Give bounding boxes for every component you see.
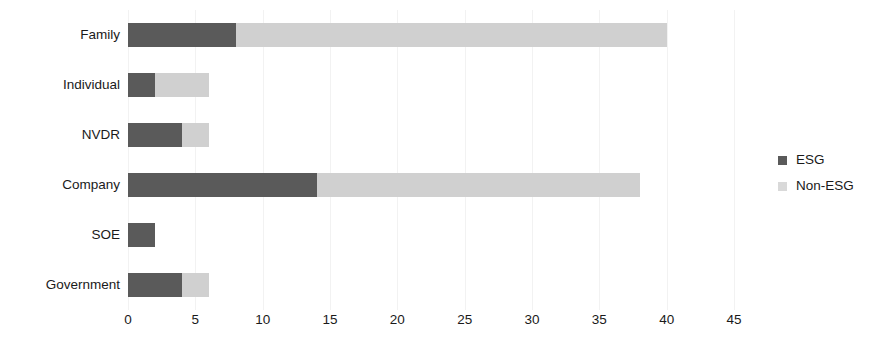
bar-row-individual [128, 60, 734, 110]
bar-segment-non-esg-family [236, 23, 667, 47]
x-tick-15: 15 [322, 312, 337, 328]
gridline-45 [734, 10, 735, 310]
bar-segment-esg-family [128, 23, 236, 47]
x-tick-25: 25 [457, 312, 472, 328]
y-axis-label-family: Family [0, 27, 120, 43]
bar-chart: FamilyIndividualNVDRCompanySOEGovernment… [0, 0, 894, 357]
y-axis-label-government: Government [0, 277, 120, 293]
y-axis-label-company: Company [0, 177, 120, 193]
legend-swatch-icon [778, 156, 787, 165]
bar-segment-non-esg-individual [155, 73, 209, 97]
bar-segment-non-esg-government [182, 273, 209, 297]
bar-track [128, 123, 209, 147]
x-tick-30: 30 [524, 312, 539, 328]
bar-track [128, 173, 640, 197]
legend-item-esg[interactable]: ESG [778, 147, 888, 173]
bar-track [128, 273, 209, 297]
legend-item-non-esg[interactable]: Non-ESG [778, 173, 888, 199]
bar-track [128, 23, 667, 47]
bar-row-family [128, 10, 734, 60]
x-tick-20: 20 [390, 312, 405, 328]
x-tick-0: 0 [124, 312, 132, 328]
bar-segment-esg-company [128, 173, 317, 197]
bar-segment-non-esg-company [317, 173, 640, 197]
bar-segment-esg-soe [128, 223, 155, 247]
bar-track [128, 73, 209, 97]
bar-row-nvdr [128, 110, 734, 160]
x-tick-5: 5 [192, 312, 200, 328]
plot-area [128, 10, 734, 310]
legend-swatch-icon [778, 182, 787, 191]
chart-legend: ESGNon-ESG [778, 147, 888, 199]
y-axis-category-labels: FamilyIndividualNVDRCompanySOEGovernment [0, 10, 120, 310]
x-tick-40: 40 [659, 312, 674, 328]
x-tick-45: 45 [726, 312, 741, 328]
bar-row-soe [128, 210, 734, 260]
bar-segment-non-esg-nvdr [182, 123, 209, 147]
bar-row-government [128, 260, 734, 310]
x-axis-tick-labels: 051015202530354045 [128, 312, 734, 336]
y-axis-label-soe: SOE [0, 227, 120, 243]
bar-row-company [128, 160, 734, 210]
x-tick-35: 35 [592, 312, 607, 328]
legend-label: Non-ESG [796, 178, 854, 194]
y-axis-label-individual: Individual [0, 77, 120, 93]
legend-label: ESG [796, 152, 825, 168]
bar-segment-esg-government [128, 273, 182, 297]
y-axis-label-nvdr: NVDR [0, 127, 120, 143]
bar-segment-esg-nvdr [128, 123, 182, 147]
x-tick-10: 10 [255, 312, 270, 328]
bar-segment-esg-individual [128, 73, 155, 97]
bar-rows [128, 10, 734, 310]
bar-track [128, 223, 155, 247]
